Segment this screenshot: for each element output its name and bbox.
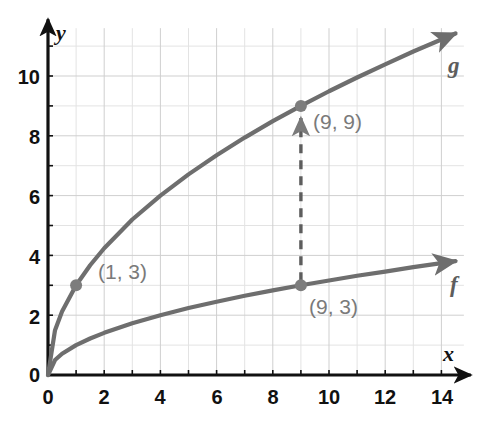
grid-lines-minor	[48, 28, 464, 375]
x-tick-label-8: 8	[258, 386, 288, 409]
axis-lines	[48, 19, 471, 375]
y-tick-label-4: 4	[8, 246, 40, 269]
x-tick-label-4: 4	[145, 386, 175, 409]
y-tick-label-8: 8	[8, 126, 40, 149]
x-tick-label-12: 12	[370, 386, 400, 409]
curve-label-g: g	[448, 53, 460, 79]
chart-figure: 10 8 6 4 2 0 0 2 4 6 8 10 12 14 y x g f …	[0, 0, 487, 426]
x-tick-label-10: 10	[314, 386, 344, 409]
x-tick-label-6: 6	[202, 386, 232, 409]
y-axis-label: y	[56, 20, 66, 46]
point-label-9-3: (9, 3)	[309, 295, 358, 319]
x-tick-label-14: 14	[427, 386, 457, 409]
y-tick-label-6: 6	[8, 186, 40, 209]
curve-label-f: f	[450, 272, 458, 298]
grid-lines-major	[48, 28, 464, 375]
y-tick-label-0: 0	[8, 364, 40, 387]
y-tick-label-2: 2	[8, 306, 40, 329]
x-tick-label-2: 2	[89, 386, 119, 409]
point-label-1-3: (1, 3)	[98, 260, 147, 284]
curve-paths	[48, 34, 455, 375]
x-tick-label-0: 0	[33, 386, 63, 409]
y-tick-label-10: 10	[8, 66, 40, 89]
point-label-9-9: (9, 9)	[313, 110, 362, 134]
x-axis-label: x	[443, 341, 454, 367]
chart-canvas	[0, 0, 487, 426]
